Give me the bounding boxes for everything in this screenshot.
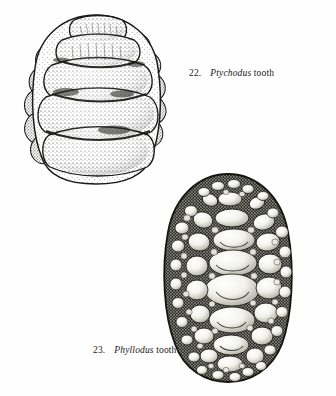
figure-number-22: 22.: [189, 68, 201, 78]
ptychodus-drawing: [16, 6, 178, 186]
figure-phyllodus-tooth: [158, 170, 298, 386]
genus-name-ptychodus: Ptychodus: [210, 68, 251, 78]
illustration-plate: 22.Ptychodus tooth: [0, 0, 336, 396]
caption-figure-22: 22.Ptychodus tooth: [189, 68, 274, 78]
genus-name-phyllodus: Phyllodus: [114, 345, 153, 355]
caption-common-23: tooth: [154, 345, 177, 355]
caption-figure-23: 23.Phyllodus tooth: [93, 345, 177, 355]
figure-ptychodus-tooth: [16, 6, 178, 186]
figure-number-23: 23.: [93, 345, 105, 355]
phyllodus-drawing: [158, 170, 298, 386]
caption-common-22: tooth: [251, 68, 274, 78]
